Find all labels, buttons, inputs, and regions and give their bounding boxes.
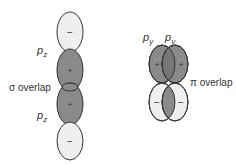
pz-top-label: pz [36, 44, 47, 59]
pi-overlap-label: π overlap [190, 77, 233, 88]
sign-plus: + [179, 60, 184, 69]
pz-bottom-label: pz [36, 109, 47, 124]
sign-minus: − [178, 97, 184, 108]
sign-plus: + [68, 100, 73, 109]
sign-minus: − [67, 136, 73, 147]
sign-minus: − [67, 27, 73, 38]
py-right-label: py [164, 31, 176, 46]
orbital-overlap-diagram: − + + − pz pz σ overlap + + − − py py π … [0, 0, 236, 165]
sigma-overlap-region [62, 83, 78, 91]
pi-overlap-group: + + − − py py π overlap [142, 31, 233, 121]
sigma-overlap-label: σ overlap [9, 82, 51, 93]
py-left-label: py [142, 31, 154, 46]
sign-minus: − [154, 97, 160, 108]
sign-plus: + [155, 60, 160, 69]
sigma-overlap-group: − + + − pz pz σ overlap [9, 12, 83, 160]
sign-plus: + [68, 66, 73, 75]
